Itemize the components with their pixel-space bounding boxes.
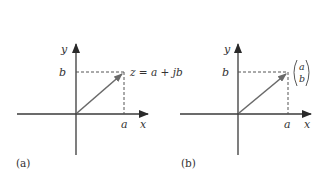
x-tick-label: a (284, 118, 291, 131)
panel-caption: (a) (16, 157, 30, 169)
panel-caption: (b) (181, 157, 196, 169)
y-tick-label: b (59, 66, 66, 79)
point-label: z = a + jb (129, 66, 183, 78)
vector-arrow (77, 74, 122, 113)
column-vector-label: a b (294, 60, 309, 86)
y-tick-label: b (222, 66, 229, 79)
x-tick-label: a (121, 118, 128, 131)
x-axis-label: x (304, 118, 311, 131)
y-axis-label: y (223, 43, 231, 56)
right-paren (306, 60, 309, 86)
y-axis-label: y (60, 43, 68, 56)
diagram-canvas: y b a x z = a + jb (a) y b a x a b (b) (0, 0, 333, 179)
vector-bottom: b (299, 73, 305, 84)
x-axis-label: x (140, 118, 147, 131)
left-paren (294, 60, 297, 86)
vector-arrow (239, 74, 286, 113)
vector-top: a (299, 61, 305, 72)
panel-a: y b a x z = a + jb (a) (16, 43, 183, 169)
panel-b: y b a x a b (b) (180, 43, 311, 169)
